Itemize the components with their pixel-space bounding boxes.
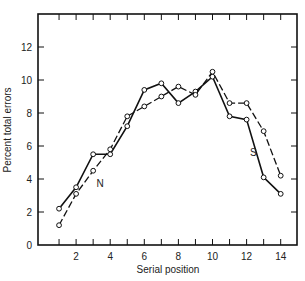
- data-point: [227, 114, 232, 119]
- data-point: [261, 129, 266, 134]
- x-tick-label: 10: [207, 251, 219, 262]
- serial-position-chart: 2468101214 024681012 NS Serial position …: [0, 0, 305, 281]
- x-tick-label: 12: [241, 251, 253, 262]
- y-tick-label: 8: [26, 108, 32, 119]
- data-point: [91, 152, 96, 157]
- series-label-n: N: [97, 178, 104, 189]
- data-point: [108, 152, 113, 157]
- x-tick-label: 4: [107, 251, 113, 262]
- data-point: [74, 191, 79, 196]
- data-point: [244, 101, 249, 106]
- data-point: [227, 101, 232, 106]
- data-point: [142, 88, 147, 93]
- plot-frame: [38, 14, 297, 245]
- data-point: [278, 173, 283, 178]
- series-n-line: [59, 72, 281, 225]
- data-point: [91, 168, 96, 173]
- data-point: [142, 104, 147, 109]
- series-s-line: [59, 77, 281, 209]
- data-point: [57, 223, 62, 228]
- x-axis-label: Serial position: [137, 264, 200, 275]
- data-point: [193, 92, 198, 97]
- data-point: [159, 94, 164, 99]
- data-point: [108, 147, 113, 152]
- series-labels: NS: [97, 147, 257, 189]
- data-point: [176, 84, 181, 89]
- data-point: [74, 185, 79, 190]
- y-tick-label: 12: [21, 42, 33, 53]
- y-tick-label: 6: [26, 141, 32, 152]
- data-point: [278, 191, 283, 196]
- y-tick-label: 2: [26, 207, 32, 218]
- y-tick-label: 10: [21, 75, 33, 86]
- data-point: [125, 124, 130, 129]
- data-point: [210, 69, 215, 74]
- data-point: [244, 117, 249, 122]
- x-tick-label: 8: [176, 251, 182, 262]
- series-label-s: S: [250, 147, 257, 158]
- y-tick-label: 4: [26, 174, 32, 185]
- data-point: [125, 114, 130, 119]
- data-point: [159, 81, 164, 86]
- y-axis-label: Percent total errors: [2, 87, 13, 172]
- y-tick-label: 0: [26, 240, 32, 251]
- data-point: [57, 206, 62, 211]
- x-tick-label: 14: [275, 251, 287, 262]
- x-tick-label: 6: [142, 251, 148, 262]
- data-point: [176, 101, 181, 106]
- data-point: [261, 175, 266, 180]
- x-tick-label: 2: [73, 251, 79, 262]
